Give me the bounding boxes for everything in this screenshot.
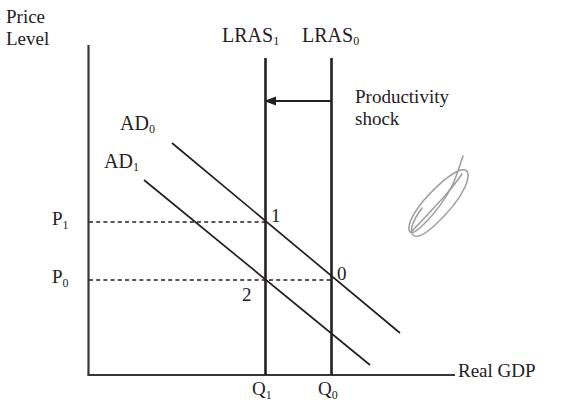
lras0-label-text: LRAS xyxy=(302,24,353,46)
y-axis-title-line2: Level xyxy=(6,28,49,49)
equilibrium-label-1: 1 xyxy=(271,205,281,227)
productivity-shock-annotation: Productivity shock xyxy=(355,86,449,131)
quantity-tick-q1: Q1 xyxy=(252,378,272,400)
lras1-label-text: LRAS xyxy=(222,24,273,46)
price-tick-p1-sub: 1 xyxy=(63,218,69,232)
lras1-label: LRAS1 xyxy=(222,24,279,48)
y-axis-title: Price Level xyxy=(6,6,49,51)
lras1-label-sub: 1 xyxy=(273,34,279,48)
ad1-label-text: AD xyxy=(104,150,133,172)
price-tick-p0: P0 xyxy=(52,266,69,288)
quantity-tick-q1-sub: 1 xyxy=(266,388,272,402)
price-tick-p1: P1 xyxy=(52,208,69,230)
price-tick-p0-sub: 0 xyxy=(63,276,69,290)
ad0-label: AD0 xyxy=(120,112,155,136)
ad1-label-sub: 1 xyxy=(133,160,139,174)
price-tick-p0-text: P xyxy=(52,266,63,287)
economics-diagram: Price Level Real GDP LRAS1 LRAS0 AD0 AD1… xyxy=(0,0,563,412)
ad0-curve xyxy=(172,143,400,333)
quantity-tick-q0: Q0 xyxy=(318,378,338,400)
ad0-label-text: AD xyxy=(120,112,149,134)
x-axis-title: Real GDP xyxy=(458,360,536,382)
diagram-canvas xyxy=(0,0,563,412)
ad0-label-sub: 0 xyxy=(149,122,155,136)
productivity-shock-line1: Productivity xyxy=(355,86,449,107)
price-tick-p1-text: P xyxy=(52,208,63,229)
quantity-tick-q1-text: Q xyxy=(252,378,266,399)
y-axis-title-line1: Price xyxy=(6,6,45,27)
equilibrium-label-0: 0 xyxy=(337,263,347,285)
ad1-label: AD1 xyxy=(104,150,139,174)
quantity-tick-q0-text: Q xyxy=(318,378,332,399)
lras0-label-sub: 0 xyxy=(353,34,359,48)
quantity-tick-q0-sub: 0 xyxy=(332,388,338,402)
handwritten-scribble-doodle xyxy=(409,156,468,236)
productivity-shock-line2: shock xyxy=(355,108,449,130)
lras0-label: LRAS0 xyxy=(302,24,359,48)
equilibrium-label-2: 2 xyxy=(242,284,252,306)
